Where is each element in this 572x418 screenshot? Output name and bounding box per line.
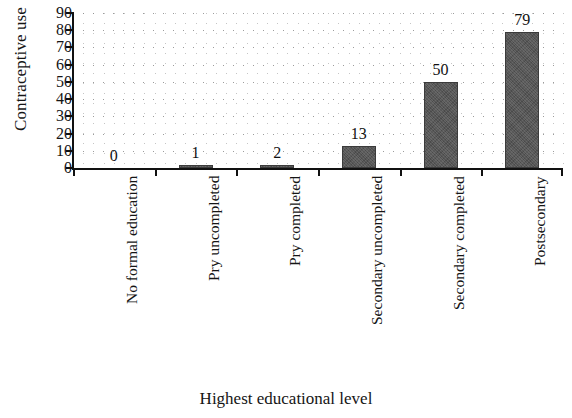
vertical-grid-line — [134, 13, 135, 168]
y-tick-mark — [66, 81, 74, 83]
vertical-grid-line — [461, 13, 462, 168]
vertical-grid-line — [481, 13, 482, 168]
x-tick-mark — [400, 169, 402, 176]
vertical-grid-line — [400, 13, 401, 168]
x-category-label: Pry completed — [285, 176, 305, 266]
bar-value-label: 50 — [411, 62, 471, 78]
vertical-grid-line — [318, 13, 319, 168]
vertical-grid-line — [410, 13, 411, 168]
vertical-grid-line — [379, 13, 380, 168]
y-tick-mark — [66, 150, 74, 152]
x-tick-mark — [318, 169, 320, 176]
x-category-label: Secondary uncompleted — [367, 176, 387, 325]
x-tick-mark — [561, 169, 563, 176]
grid-lines — [73, 13, 563, 168]
plot-area — [73, 13, 563, 168]
y-axis-tick-labels: 9080706050403020100 — [38, 0, 72, 185]
vertical-grid-line — [114, 13, 115, 168]
y-tick-mark — [66, 115, 74, 117]
bar-value-label: 0 — [84, 148, 144, 164]
y-tick-mark — [66, 133, 74, 135]
x-category-label: Secondary completed — [449, 176, 469, 310]
bar — [342, 146, 376, 168]
y-tick-mark — [66, 98, 74, 100]
y-axis-title: Contraceptive use — [11, 0, 37, 155]
bar-value-label: 1 — [166, 145, 226, 161]
bar — [505, 32, 539, 168]
vertical-grid-line — [502, 13, 503, 168]
vertical-grid-line — [471, 13, 472, 168]
y-axis-line — [72, 13, 74, 170]
vertical-grid-line — [338, 13, 339, 168]
vertical-grid-line — [420, 13, 421, 168]
vertical-grid-line — [328, 13, 329, 168]
vertical-grid-line — [83, 13, 84, 168]
x-category-label: No formal education — [122, 176, 142, 304]
y-tick-mark — [66, 46, 74, 48]
vertical-grid-line — [236, 13, 237, 168]
x-axis-title: Highest educational level — [0, 389, 572, 409]
x-category-label: Pry uncompleted — [204, 176, 224, 281]
vertical-grid-line — [492, 13, 493, 168]
vertical-grid-line — [389, 13, 390, 168]
vertical-grid-line — [308, 13, 309, 168]
vertical-grid-line — [563, 13, 564, 168]
vertical-grid-line — [124, 13, 125, 168]
y-tick-mark — [66, 64, 74, 66]
bar-value-label: 79 — [492, 12, 552, 28]
y-tick-mark — [66, 29, 74, 31]
vertical-grid-line — [155, 13, 156, 168]
vertical-grid-line — [226, 13, 227, 168]
x-tick-mark — [481, 169, 483, 176]
x-tick-mark — [155, 169, 157, 176]
vertical-grid-line — [144, 13, 145, 168]
bar-value-label: 2 — [247, 145, 307, 161]
x-tick-mark — [236, 169, 238, 176]
y-tick-mark — [66, 12, 74, 14]
bar-chart-figure: Contraceptive use 9080706050403020100 No… — [0, 0, 572, 418]
bar-value-label: 13 — [329, 126, 389, 142]
bar — [424, 82, 458, 168]
x-category-label: Postsecondary — [530, 176, 550, 266]
vertical-grid-line — [553, 13, 554, 168]
x-axis-category-labels: No formal educationPry uncompletedPry co… — [0, 176, 572, 376]
x-tick-mark — [73, 169, 75, 176]
vertical-grid-line — [93, 13, 94, 168]
vertical-grid-line — [543, 13, 544, 168]
vertical-grid-line — [104, 13, 105, 168]
